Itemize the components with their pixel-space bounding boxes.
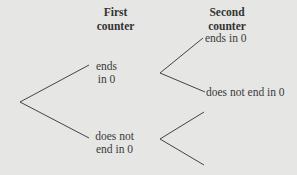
- header-first-line2: counter: [88, 19, 143, 33]
- branch-not-upper: [160, 112, 204, 139]
- tree-diagram: First counter Second counter ends in 0 d…: [0, 0, 297, 175]
- header-first-counter: First counter: [88, 5, 143, 33]
- node-first-does-not-end-in-0: does not end in 0: [87, 130, 142, 156]
- node-second-ends-in-0: ends in 0: [205, 32, 247, 45]
- node-first-ends-in-0: ends in 0: [89, 60, 124, 86]
- branch-not-lower: [160, 139, 204, 165]
- header-second-line2: counter: [197, 19, 257, 33]
- node-line: does not: [87, 130, 142, 143]
- branch-ends-not: [160, 73, 205, 92]
- node-line: end in 0: [87, 143, 142, 156]
- node-line: in 0: [89, 73, 124, 86]
- branch-root-not: [20, 102, 89, 138]
- branch-ends-ends: [160, 38, 203, 73]
- header-first-line1: First: [88, 5, 143, 19]
- branch-root-ends: [20, 65, 89, 102]
- node-line: ends: [89, 60, 124, 73]
- node-second-does-not-end-in-0: does not end in 0: [206, 86, 285, 99]
- header-second-counter: Second counter: [197, 5, 257, 33]
- header-second-line1: Second: [197, 5, 257, 19]
